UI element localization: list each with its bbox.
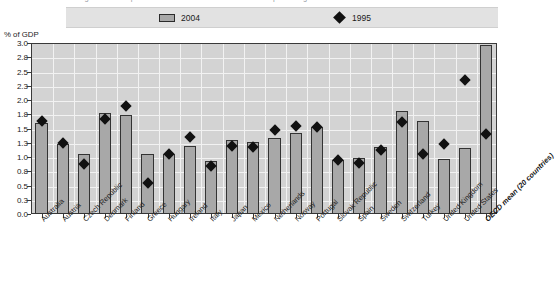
- legend-label-2004: 2004: [181, 13, 200, 23]
- diamond-1995: [121, 100, 132, 111]
- diamond-1995: [460, 74, 471, 85]
- bar-2004: [374, 147, 386, 214]
- clipped-title-strip: Figure: Total expenditure on educational…: [0, 0, 504, 7]
- figure-title: Figure: Total expenditure on educational…: [78, 0, 339, 2]
- diamond-1995: [184, 131, 195, 142]
- diamond-1995: [269, 124, 280, 135]
- y-tick-label: 1.3: [6, 138, 28, 147]
- chart-legend: 2004 1995: [66, 7, 498, 28]
- bar-2004: [268, 138, 280, 214]
- bar-2004: [35, 123, 47, 214]
- y-tick-label: 2.5: [6, 67, 28, 76]
- y-tick-label: 3.0: [6, 39, 28, 48]
- y-tick-label: 1.0: [6, 153, 28, 162]
- legend-entry-1995: 1995: [334, 12, 371, 23]
- y-tick-label: 0.3: [6, 195, 28, 204]
- y-tick-label: 1.8: [6, 110, 28, 119]
- y-tick-label: 0.5: [6, 181, 28, 190]
- diamond-swatch-icon: [333, 11, 346, 24]
- y-tick-label: 0.8: [6, 167, 28, 176]
- legend-label-1995: 1995: [352, 13, 371, 23]
- diamond-1995: [438, 139, 449, 150]
- legend-entry-2004: 2004: [159, 12, 200, 23]
- y-tick-label: 2.3: [6, 81, 28, 90]
- y-tick-label: 2.0: [6, 96, 28, 105]
- bar-2004: [247, 142, 259, 214]
- x-axis-category-labels: AustraliaAustriaCzech RepublicDenmarkFin…: [0, 214, 504, 294]
- diamond-1995: [290, 120, 301, 131]
- y-tick-label: 2.8: [6, 53, 28, 62]
- y-tick-label: 1.5: [6, 124, 28, 133]
- bar-swatch-icon: [159, 14, 175, 22]
- data-series-layer: [31, 43, 497, 214]
